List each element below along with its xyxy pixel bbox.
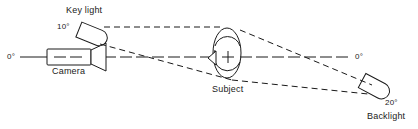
backlight-label: Backlight: [367, 112, 405, 121]
key-light-label: Key light: [66, 6, 102, 15]
key-light-housing: [76, 22, 110, 48]
diagram-canvas: [0, 0, 418, 129]
axis-left-angle-label: 0°: [7, 53, 15, 61]
subject-face-arc: [214, 50, 240, 71]
subject-label: Subject: [212, 85, 243, 94]
axis-right-angle-label: 0°: [355, 53, 363, 61]
subject-hairline-arc: [215, 37, 240, 46]
camera-body: [47, 49, 91, 65]
camera-label: Camera: [52, 67, 85, 76]
key-light-fixture: [76, 22, 110, 48]
camera-lens: [91, 43, 106, 71]
key-light-angle-label: 10°: [57, 23, 70, 31]
lighting-diagram: Key light 10° Camera 0° 0° Subject 20° B…: [0, 0, 418, 129]
backlight-lower-beam: [232, 80, 368, 94]
subject-nose: [208, 51, 216, 65]
backlight-angle-label: 20°: [385, 99, 398, 107]
